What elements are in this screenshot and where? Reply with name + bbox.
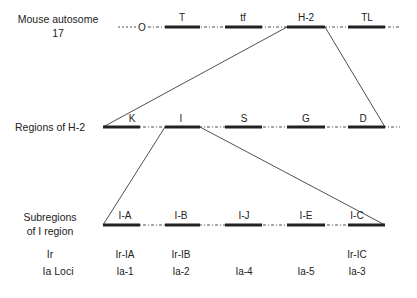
ia-value-2: Ia-2 [172, 266, 190, 277]
subregions-label-line2: of I region [27, 225, 74, 237]
segment-label-tf: tf [240, 12, 246, 23]
regions-label: Regions of H-2 [15, 121, 85, 133]
subregion-label-I-J: I-J [238, 210, 249, 221]
ir-row: Ir Ir-IA Ir-IB Ir-IC [47, 248, 367, 260]
segment-label-TL: TL [361, 12, 373, 23]
ia-value-3: Ia-3 [348, 266, 366, 277]
h2-complex-diagram: Mouse autosome 17 O T tf H-2 TL Regions … [0, 0, 417, 298]
region-label-I: I [180, 113, 183, 124]
expansion-line-right [325, 27, 385, 127]
segment-label-T: T [179, 12, 185, 23]
region-label-D: D [359, 113, 366, 124]
subregions-row: Subregions of I region I-A I-B I-J I-E I… [23, 210, 385, 237]
ir-value-IC: Ir-IC [347, 249, 366, 260]
ir-label: Ir [47, 248, 54, 260]
chromosome-label-line2: 17 [52, 27, 64, 39]
expansion-line-left-2 [103, 127, 165, 225]
subregion-label-I-E: I-E [300, 210, 313, 221]
region-label-K: K [129, 113, 136, 124]
ia-value-5: Ia-5 [297, 266, 315, 277]
regions-row: Regions of H-2 K I S G D [15, 113, 400, 133]
ia-label: Ia Loci [43, 265, 74, 277]
ir-value-IA: Ir-IA [116, 249, 135, 260]
expansion-line-left [103, 27, 287, 127]
subregions-label-line1: Subregions [23, 211, 76, 223]
segment-label-H-2: H-2 [298, 12, 315, 23]
ia-value-1: Ia-1 [116, 266, 134, 277]
subregion-label-I-C: I-C [350, 210, 363, 221]
subregion-label-I-B: I-B [175, 210, 188, 221]
ia-row: Ia Loci Ia-1 Ia-2 Ia-4 Ia-5 Ia-3 [43, 265, 367, 277]
region-label-S: S [241, 113, 248, 124]
centromere-label: O [138, 22, 146, 33]
subregion-label-I-A: I-A [119, 210, 132, 221]
ir-value-IB: Ir-IB [172, 249, 191, 260]
chromosome-label-line1: Mouse autosome [18, 13, 99, 25]
chromosome-row: Mouse autosome 17 O T tf H-2 TL [18, 12, 400, 39]
ia-value-4: Ia-4 [235, 266, 253, 277]
region-label-G: G [302, 113, 310, 124]
